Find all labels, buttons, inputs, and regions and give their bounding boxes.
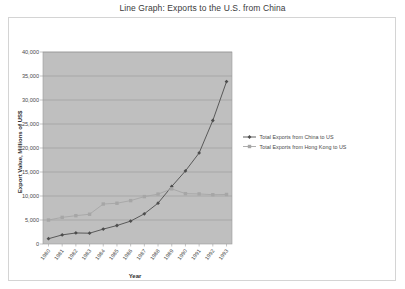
- data-point: [184, 192, 187, 195]
- x-tick-label: 1982: [67, 248, 79, 261]
- x-tick-label: 1988: [149, 248, 161, 261]
- y-tick-label: 40,000: [22, 49, 39, 55]
- y-tick-label: 0: [36, 241, 39, 247]
- y-axis-tick-labels: 05,00010,00015,00020,00025,00030,00035,0…: [22, 49, 43, 247]
- y-tick-label: 35,000: [22, 73, 39, 79]
- data-point: [74, 214, 77, 217]
- y-tick-label: 25,000: [22, 121, 39, 127]
- chart-container: Line Graph: Exports to the U.S. from Chi…: [0, 0, 405, 289]
- y-tick-label: 5,000: [25, 217, 39, 223]
- y-tick-label: 20,000: [22, 145, 39, 151]
- data-point: [143, 195, 146, 198]
- y-tick-label: 30,000: [22, 97, 39, 103]
- data-point: [225, 193, 228, 196]
- x-tick-label: 1992: [203, 248, 215, 261]
- x-axis-tick-labels: 1980198119821983198419851986198719881989…: [39, 244, 229, 261]
- data-point: [47, 218, 50, 221]
- x-tick-label: 1983: [80, 248, 92, 261]
- x-tick-label: 1993: [217, 248, 229, 261]
- data-point: [115, 202, 118, 205]
- x-tick-label: 1989: [162, 248, 174, 261]
- data-point: [156, 192, 159, 195]
- data-point: [60, 216, 63, 219]
- y-tick-label: 15,000: [22, 169, 39, 175]
- x-axis-label: Year: [129, 273, 142, 279]
- data-point: [129, 199, 132, 202]
- x-tick-label: 1981: [53, 248, 65, 261]
- legend-label: Total Exports from Hong Kong to US: [260, 144, 347, 150]
- x-tick-label: 1985: [108, 248, 120, 261]
- y-tick-label: 10,000: [22, 193, 39, 199]
- data-point: [197, 192, 200, 195]
- data-point: [211, 193, 214, 196]
- legend-label: Total Exports from China to US: [260, 134, 334, 140]
- data-point: [102, 202, 105, 205]
- y-axis-label: Export Value, Millions of US$: [17, 110, 23, 193]
- legend-marker: [248, 135, 252, 139]
- x-tick-label: 1984: [94, 248, 106, 261]
- x-tick-label: 1986: [121, 248, 133, 261]
- data-point: [170, 187, 173, 190]
- data-point: [88, 213, 91, 216]
- plot-svg: 05,00010,00015,00020,00025,00030,00035,0…: [0, 0, 405, 289]
- legend-marker: [248, 145, 251, 148]
- chart-legend: Total Exports from China to USTotal Expo…: [243, 134, 347, 150]
- x-tick-label: 1991: [190, 248, 202, 261]
- x-tick-label: 1990: [176, 248, 188, 261]
- x-tick-label: 1987: [135, 248, 147, 261]
- x-tick-label: 1980: [39, 248, 51, 261]
